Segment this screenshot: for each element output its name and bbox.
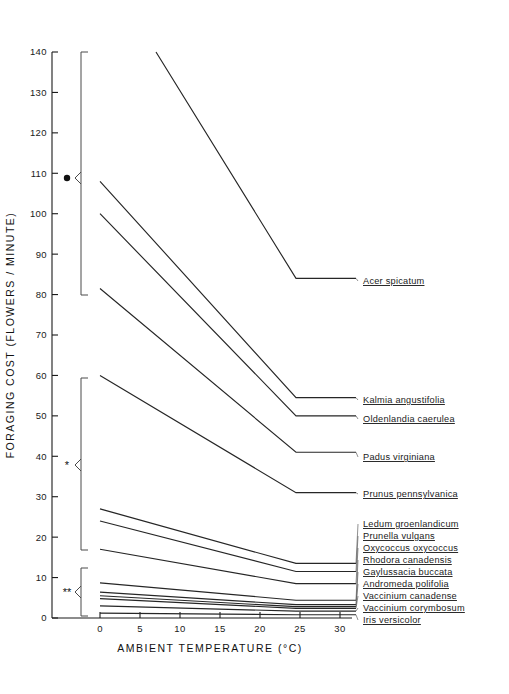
y-tick-label: 30 [36, 491, 47, 502]
species-label-group: Acer spicatumKalmia angustifoliaOldenlan… [363, 276, 465, 625]
species-label: Padus virginiana [363, 452, 436, 462]
y-tick-label: 140 [30, 46, 47, 57]
species-label: Prunus pennsylvanica [363, 489, 459, 499]
label-leader-line [356, 615, 358, 620]
y-axis: 0102030405060708090100110120130140 FORAG… [4, 46, 58, 623]
group-bracket-pointer [75, 172, 81, 184]
double-asterisk-icon: ** [63, 586, 72, 598]
x-tick-label: 25 [294, 623, 305, 634]
y-axis-title: FORAGING COST (FLOWERS / MINUTE) [4, 212, 16, 459]
group-bracket [81, 378, 88, 550]
label-leader-line [356, 452, 358, 457]
label-leader-line [356, 398, 358, 400]
label-leader-line [356, 416, 358, 419]
y-tick-label: 0 [41, 612, 47, 623]
group-bracket-group: *** [63, 52, 88, 616]
series-line [156, 52, 356, 278]
y-tick-label: 50 [36, 410, 47, 421]
y-tick-label: 130 [30, 87, 47, 98]
species-label: Oldenlandia caerulea [363, 414, 455, 424]
x-tick-label: 5 [137, 623, 143, 634]
x-axis-title: AMBIENT TEMPERATURE (°C) [117, 642, 302, 654]
y-tick-label-group: 0102030405060708090100110120130140 [30, 46, 47, 623]
x-axis: 051015202530 AMBIENT TEMPERATURE (°C) [52, 612, 352, 654]
species-label: Kalmia angustifolia [363, 395, 446, 405]
x-tick-label: 30 [334, 623, 345, 634]
y-tick-label: 120 [30, 127, 47, 138]
series-line [100, 375, 356, 492]
y-tick-label: 110 [31, 168, 47, 179]
x-tick-label: 0 [97, 623, 103, 634]
species-label: Andromeda polifolia [363, 579, 450, 589]
species-label: Prunella vulgans [363, 531, 435, 541]
single-asterisk-icon: * [65, 459, 70, 471]
x-tick-label: 20 [254, 623, 265, 634]
group-bracket [81, 568, 88, 616]
y-tick-group [52, 52, 58, 618]
species-label: Rhodora canadensis [363, 555, 452, 565]
x-tick-label: 15 [214, 623, 225, 634]
series-line [100, 613, 356, 615]
series-group [100, 52, 356, 615]
y-tick-label: 80 [36, 289, 47, 300]
label-leader-line [356, 608, 358, 611]
filled-circle-icon [64, 175, 70, 181]
series-line [100, 289, 356, 453]
series-line [100, 181, 356, 397]
species-label: Ledum groenlandicum [363, 519, 459, 529]
group-bracket-pointer [75, 586, 81, 598]
foraging-cost-line-chart: 0102030405060708090100110120130140 FORAG… [0, 0, 509, 694]
leader-line-group [356, 278, 358, 620]
species-label: Iris versicolor [363, 615, 421, 625]
figure-page: 0102030405060708090100110120130140 FORAG… [0, 0, 509, 694]
group-bracket [81, 52, 88, 295]
species-label: Vaccinium canadense [363, 591, 457, 601]
y-tick-label: 20 [36, 532, 47, 543]
y-tick-label: 100 [30, 208, 47, 219]
series-line [100, 214, 356, 416]
x-tick-label-group: 051015202530 [97, 623, 346, 634]
species-label: Vaccinium corymbosum [363, 603, 465, 613]
species-label: Acer spicatum [363, 276, 425, 286]
group-bracket-pointer [75, 459, 81, 471]
label-leader-line [356, 493, 358, 494]
y-tick-label: 10 [36, 572, 47, 583]
y-tick-label: 70 [36, 329, 47, 340]
label-leader-line [356, 278, 358, 281]
species-label: Gaylussacia buccata [363, 567, 453, 577]
y-tick-label: 40 [36, 451, 47, 462]
y-tick-label: 60 [36, 370, 47, 381]
species-label: Oxycoccus oxycoccus [363, 543, 458, 553]
series-line [100, 509, 356, 564]
y-tick-label: 90 [36, 249, 47, 260]
x-tick-label: 10 [174, 623, 185, 634]
